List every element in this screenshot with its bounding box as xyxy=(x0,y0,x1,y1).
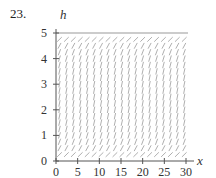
y-tick-label: 0 xyxy=(41,154,47,168)
slope-segment xyxy=(100,75,101,81)
slope-segment xyxy=(162,43,165,49)
slope-segment xyxy=(126,152,131,157)
x-tick-label: 20 xyxy=(137,165,149,178)
slope-segment xyxy=(94,94,95,100)
slope-segment xyxy=(100,94,101,100)
slope-field-segments xyxy=(56,33,188,157)
slope-segment xyxy=(177,75,178,81)
slope-segment xyxy=(128,55,130,61)
slope-segment xyxy=(65,55,67,61)
slope-segment xyxy=(99,152,104,157)
slope-segment xyxy=(121,81,122,87)
slope-segment xyxy=(79,55,81,61)
slope-segment xyxy=(182,37,187,42)
slope-segment xyxy=(142,81,143,87)
slope-segment xyxy=(86,43,89,49)
slope-segment xyxy=(149,107,150,113)
slope-segment xyxy=(113,37,118,42)
slope-segment xyxy=(80,100,81,106)
slope-segment xyxy=(147,37,152,42)
slope-segment xyxy=(149,119,150,125)
slope-segment xyxy=(93,68,94,74)
slope-segment xyxy=(142,132,144,138)
slope-segment xyxy=(170,87,171,93)
slope-segment xyxy=(66,87,67,93)
slope-segment xyxy=(66,68,67,74)
slope-segment xyxy=(100,139,102,145)
slope-segment xyxy=(86,139,88,145)
slope-segment xyxy=(65,132,67,138)
slope-segment xyxy=(149,126,151,132)
slope-segment xyxy=(134,145,137,151)
slope-segment xyxy=(65,139,67,145)
slope-segment xyxy=(73,75,74,81)
slope-segment xyxy=(114,126,116,132)
slope-segment xyxy=(177,119,178,125)
slope-segment xyxy=(176,43,179,49)
slope-segment xyxy=(135,107,136,113)
slope-segment xyxy=(66,100,67,106)
slope-segment xyxy=(140,37,145,42)
slope-segment xyxy=(135,126,137,132)
slope-segment xyxy=(121,62,123,68)
slope-segment xyxy=(73,107,74,113)
slope-segment xyxy=(133,152,138,157)
slope-segment xyxy=(128,81,129,87)
slope-segment xyxy=(79,132,81,138)
slope-segment xyxy=(100,62,102,68)
slope-segment xyxy=(184,119,185,125)
slope-segment xyxy=(86,132,88,138)
slope-segment xyxy=(177,62,179,68)
y-tick-label: 5 xyxy=(41,26,47,40)
x-tick-label: 25 xyxy=(158,165,170,178)
y-axis-label: h xyxy=(60,7,67,22)
slope-segment xyxy=(66,126,68,132)
slope-segment xyxy=(59,119,60,125)
slope-segment xyxy=(80,113,81,119)
slope-segment xyxy=(149,87,150,93)
slope-segment xyxy=(85,37,90,42)
slope-segment xyxy=(156,55,158,61)
slope-segment xyxy=(169,139,171,145)
slope-segment xyxy=(114,94,115,100)
slope-segment xyxy=(87,94,88,100)
slope-segment xyxy=(94,100,95,106)
slope-segment xyxy=(100,87,101,93)
slope-segment xyxy=(64,152,69,157)
y-tick-label: 2 xyxy=(41,103,47,117)
slope-segment xyxy=(100,55,102,61)
slope-segment xyxy=(135,75,136,81)
slope-segment xyxy=(155,139,157,145)
slope-segment xyxy=(93,145,96,151)
slope-segment xyxy=(176,139,178,145)
slope-segment xyxy=(135,119,136,125)
slope-segment xyxy=(72,139,74,145)
slope-segment xyxy=(149,113,150,119)
slope-segment xyxy=(177,100,178,106)
slope-segment xyxy=(73,100,74,106)
slope-segment xyxy=(135,68,136,74)
slope-segment xyxy=(107,68,108,74)
slope-segment xyxy=(156,126,158,132)
slope-segment xyxy=(94,87,95,93)
slope-segment xyxy=(66,75,67,81)
slope-segment xyxy=(114,49,116,55)
slope-segment xyxy=(121,68,122,74)
slope-segment xyxy=(107,119,108,125)
slope-segment xyxy=(87,87,88,93)
slope-segment xyxy=(183,145,186,151)
slope-segment xyxy=(86,119,87,125)
slope-segment xyxy=(86,145,89,151)
slope-segment xyxy=(87,100,88,106)
slope-segment xyxy=(66,113,67,119)
slope-segment xyxy=(114,113,115,119)
x-tick-label: 15 xyxy=(115,165,127,178)
slope-segment xyxy=(92,152,97,157)
slope-segment xyxy=(100,49,102,55)
slope-segment xyxy=(72,49,74,55)
x-axis-label: x xyxy=(196,153,203,168)
slope-segment xyxy=(121,55,123,61)
slope-segment xyxy=(66,94,67,100)
slope-segment xyxy=(149,55,151,61)
slope-segment xyxy=(107,100,108,106)
